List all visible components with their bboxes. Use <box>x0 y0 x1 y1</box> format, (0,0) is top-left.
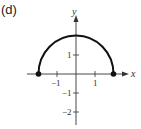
y-tick-label: −1 <box>62 88 72 98</box>
y-axis-label: y <box>71 6 77 17</box>
x-tick-label: −1 <box>51 78 61 88</box>
y-tick-label: 1 <box>67 50 72 60</box>
x-axis-label: x <box>130 68 136 79</box>
left-endpoint-dot <box>36 71 42 77</box>
y-tick-label: −2 <box>62 107 72 117</box>
right-endpoint-dot <box>111 71 117 77</box>
chart: x y −1 1 1 −1 −2 <box>0 0 141 129</box>
x-tick-label: 1 <box>93 78 98 88</box>
x-axis-arrow-icon <box>122 72 129 77</box>
